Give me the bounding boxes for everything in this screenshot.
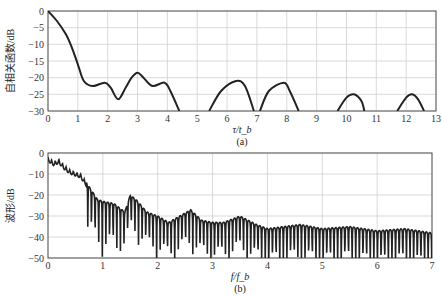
subplot-caption: (b) (234, 283, 246, 295)
x-tick-label: 3 (135, 113, 140, 124)
y-axis-label: 自相关函数/dB (4, 28, 16, 93)
x-tick-label: 0 (46, 113, 51, 124)
x-tick-label: 2 (155, 260, 160, 271)
y-tick-label: 0 (39, 6, 44, 17)
x-tick-label: 9 (314, 113, 319, 124)
autocorrelation-plot: 0123456789101112130−5−10−15−20−25−30自相关函… (4, 6, 441, 149)
x-tick-label: 6 (375, 260, 380, 271)
y-tick-label: 0 (39, 148, 44, 159)
y-axis-label: 波形/dB (4, 188, 16, 223)
x-tick-label: 5 (320, 260, 325, 271)
x-tick-label: 2 (105, 113, 110, 124)
y-tick-label: −30 (28, 211, 44, 222)
y-tick-label: −40 (28, 232, 44, 243)
x-tick-label: 4 (265, 260, 270, 271)
x-tick-label: 8 (284, 113, 289, 124)
x-tick-label: 13 (431, 113, 441, 124)
autocorrelation-curve (397, 94, 424, 111)
y-tick-label: −25 (28, 89, 44, 100)
x-tick-label: 3 (210, 260, 215, 271)
spectrum-curve (48, 157, 432, 260)
y-tick-label: −10 (28, 169, 44, 180)
y-tick-label: −30 (28, 106, 44, 117)
x-tick-label: 6 (225, 113, 230, 124)
x-tick-label: 1 (75, 113, 80, 124)
x-tick-label: 7 (254, 113, 259, 124)
x-tick-label: 0 (46, 260, 51, 271)
x-tick-label: 1 (100, 260, 105, 271)
x-tick-label: 12 (401, 113, 411, 124)
autocorrelation-curve (209, 81, 254, 111)
autocorrelation-curve (260, 83, 299, 111)
autocorrelation-curve (338, 94, 365, 111)
y-tick-label: −15 (28, 56, 44, 67)
x-tick-label: 4 (165, 113, 170, 124)
y-tick-label: −5 (33, 22, 44, 33)
y-tick-label: −20 (28, 190, 44, 201)
x-tick-label: 5 (195, 113, 200, 124)
y-tick-label: −10 (28, 39, 44, 50)
x-axis-label: τ/t_b (232, 124, 251, 135)
figure: 0123456789101112130−5−10−15−20−25−30自相关函… (0, 0, 442, 297)
subplot-caption: (a) (236, 136, 247, 148)
spectrum-plot: 012345670−10−20−30−40−50波形/dBf/f_b(b) (4, 148, 435, 296)
x-tick-label: 7 (430, 260, 435, 271)
x-tick-label: 10 (341, 113, 351, 124)
x-axis-label: f/f_b (231, 271, 249, 282)
y-tick-label: −20 (28, 72, 44, 83)
y-tick-label: −50 (28, 253, 44, 264)
x-tick-label: 11 (371, 113, 381, 124)
